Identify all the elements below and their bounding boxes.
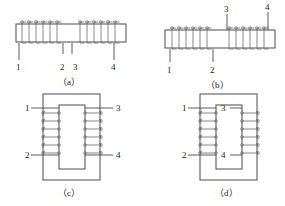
panel-a-terminal-1: 1: [16, 62, 21, 72]
panel-d-terminal-3: 3: [221, 103, 226, 113]
panel-d-terminal-1: 1: [182, 103, 187, 113]
panel-a-terminal-4: 4: [111, 62, 116, 72]
panel-d-caption: （d）: [215, 188, 238, 198]
panel-b-core: [165, 30, 275, 48]
panel-d-leads: [188, 108, 242, 155]
panel-a-core: [16, 24, 126, 42]
panel-a: 1 2 3 4 （a）: [16, 21, 126, 87]
panel-c-right-winding: [84, 111, 102, 155]
panel-d-right-winding: [241, 111, 259, 155]
panel-a-terminal-3: 3: [73, 62, 78, 72]
panel-d-core-window: [216, 105, 242, 169]
panel-a-leads: [19, 43, 114, 60]
panel-b-terminal-4: 4: [265, 2, 270, 12]
panel-c-left-winding: [42, 111, 60, 155]
panel-c-caption: （c）: [58, 188, 80, 198]
panel-d-terminal-4: 4: [221, 150, 226, 160]
panel-b-leads: [170, 12, 268, 62]
panel-c-terminal-1: 1: [25, 103, 30, 113]
panel-b-terminal-2: 2: [210, 65, 215, 75]
panel-d-left-winding: [199, 111, 217, 155]
panel-c-terminal-2: 2: [25, 150, 30, 160]
panel-b-terminal-3: 3: [224, 4, 229, 14]
panel-c: 1 2 3 4 （c）: [25, 94, 121, 198]
panel-a-caption: （a）: [58, 77, 80, 87]
panel-b: 1 2 3 4 （b）: [165, 2, 275, 90]
panel-d-terminal-2: 2: [182, 150, 187, 160]
panel-d: 1 2 3 4 （d）: [182, 94, 259, 198]
panel-c-core-window: [59, 105, 85, 169]
panel-c-terminal-3: 3: [116, 103, 121, 113]
panel-b-terminal-1: 1: [167, 65, 172, 75]
panel-a-terminal-2: 2: [60, 62, 65, 72]
coil-winding-figure: 1 2 3 4 （a）: [0, 0, 285, 206]
panel-b-caption: （b）: [206, 80, 229, 90]
panel-c-terminal-4: 4: [116, 150, 121, 160]
